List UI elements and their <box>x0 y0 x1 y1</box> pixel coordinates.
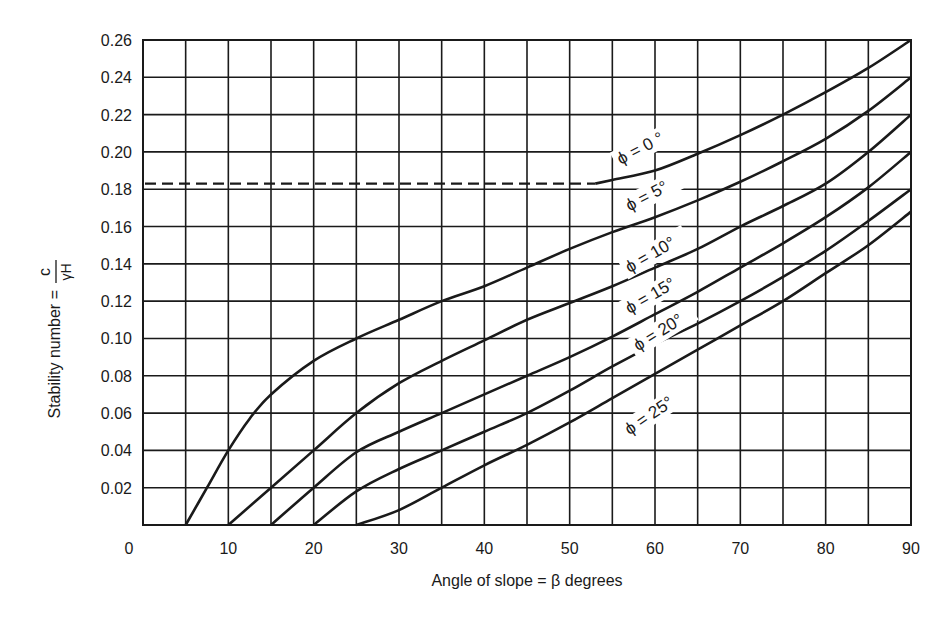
x-axis-title: Angle of slope = β degrees <box>431 572 622 589</box>
y-tick-label: 0.02 <box>101 480 132 497</box>
y-axis-title-prefix: Stability number = <box>46 290 63 419</box>
curve-label-text: ϕ = 0 ° <box>614 128 667 168</box>
y-tick-label: 0.24 <box>101 69 132 86</box>
y-tick-label: 0.26 <box>101 32 132 49</box>
x-tick-label: 0 <box>125 540 134 557</box>
curve-label-text: ϕ = 25° <box>621 392 677 438</box>
x-axis-ticks: 0102030405060708090 <box>125 540 920 557</box>
y-tick-label: 0.18 <box>101 181 132 198</box>
y-tick-label: 0.12 <box>101 293 132 310</box>
y-tick-label: 0.14 <box>101 256 132 273</box>
chart-canvas: ϕ = 0 °ϕ = 5°ϕ = 10°ϕ = 15°ϕ = 20°ϕ = 25… <box>0 0 948 619</box>
y-axis-title-numerator: c <box>36 268 53 276</box>
grid-lines <box>143 40 911 525</box>
y-axis-ticks: 0.020.040.060.080.100.120.140.160.180.20… <box>101 32 132 497</box>
x-tick-label: 60 <box>646 540 664 557</box>
x-tick-label: 40 <box>475 540 493 557</box>
x-tick-label: 70 <box>731 540 749 557</box>
curve-label-text: ϕ = 5° <box>622 177 671 215</box>
y-axis-title: Stability number = c γH <box>36 260 74 419</box>
y-tick-label: 0.10 <box>101 330 132 347</box>
y-tick-label: 0.22 <box>101 107 132 124</box>
x-tick-label: 10 <box>219 540 237 557</box>
curve-phi-0 <box>595 40 911 184</box>
x-tick-label: 90 <box>902 540 920 557</box>
x-tick-label: 20 <box>305 540 323 557</box>
y-tick-label: 0.04 <box>101 442 132 459</box>
y-tick-label: 0.08 <box>101 368 132 385</box>
y-tick-label: 0.06 <box>101 405 132 422</box>
x-tick-label: 80 <box>817 540 835 557</box>
curves <box>145 40 911 525</box>
y-tick-label: 0.16 <box>101 219 132 236</box>
stability-chart: ϕ = 0 °ϕ = 5°ϕ = 10°ϕ = 15°ϕ = 20°ϕ = 25… <box>0 0 948 619</box>
x-tick-label: 50 <box>561 540 579 557</box>
y-axis-title-denominator: γH <box>58 263 74 280</box>
y-tick-label: 0.20 <box>101 144 132 161</box>
x-tick-label: 30 <box>390 540 408 557</box>
